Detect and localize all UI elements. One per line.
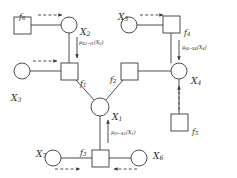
message-label-mu-f4-X4: μf4→X4(X4) <box>182 45 206 51</box>
factor-label-f2: f2 <box>110 76 116 85</box>
message-label-mu-X2-f1: μX2→f1(X2) <box>79 40 103 46</box>
factor-node-f4 <box>163 16 180 33</box>
variable-label-x5: X5 <box>118 13 128 22</box>
variable-label-x1: X1 <box>112 113 122 122</box>
message-arrows <box>33 15 179 169</box>
variable-node-x2 <box>61 17 77 33</box>
variable-node-x6 <box>131 150 147 166</box>
factor-graph-figure: X1X2X3X4X5X6X7f1f2f3f4f5f6μX2→f1(X2)μf4→… <box>0 0 237 178</box>
factor-label-f5: f5 <box>192 128 198 137</box>
variable-label-x4: X4 <box>191 77 201 86</box>
factor-node-f5 <box>171 114 188 131</box>
factor-label-f6: f6 <box>19 13 25 22</box>
variable-node-x7 <box>45 150 61 166</box>
message-label-mu-f3-X1: μf3→X1(X1) <box>111 130 135 136</box>
factor-node-f3 <box>92 150 109 167</box>
factor-node-f1 <box>61 63 78 80</box>
graph-edges <box>30 25 179 158</box>
variable-node-x3 <box>14 63 30 79</box>
variable-label-x6: X6 <box>153 152 163 161</box>
factor-label-f3: f3 <box>80 149 86 158</box>
variable-label-x7: X7 <box>36 150 46 159</box>
variable-node-x1 <box>91 98 109 116</box>
factor-label-f4: f4 <box>184 29 190 38</box>
factor-label-f1: f1 <box>80 80 86 89</box>
variable-label-x2: X2 <box>80 28 90 37</box>
variable-label-x3: X3 <box>11 94 21 103</box>
variable-node-x4 <box>171 63 187 79</box>
factor-node-f2 <box>121 63 138 80</box>
